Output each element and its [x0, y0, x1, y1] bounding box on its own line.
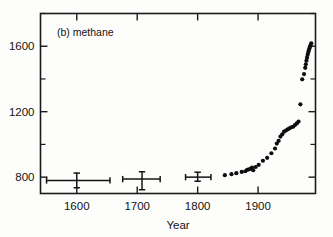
methane-scatter-chart: 80012001600 1600170018001900 (b) methane…: [0, 0, 333, 237]
data-point: [234, 171, 238, 175]
data-point: [309, 41, 313, 45]
x-tick-label: 1800: [185, 200, 211, 212]
y-tick-label: 1600: [9, 40, 35, 52]
x-axis-tick-labels: 1600170018001900: [64, 200, 271, 212]
error-bar-point: [186, 172, 211, 181]
data-point: [277, 139, 281, 143]
panel-title: (b) methane: [57, 26, 114, 38]
data-point: [240, 170, 244, 174]
y-tick-label: 800: [15, 171, 34, 183]
error-bar-series: [47, 172, 211, 190]
methane-concentration-figure: 80012001600 1600170018001900 (b) methane…: [0, 0, 333, 237]
x-tick-label: 1700: [124, 200, 150, 212]
data-point: [273, 146, 277, 150]
data-point: [304, 62, 308, 66]
data-point: [223, 173, 227, 177]
plot-frame: [41, 14, 316, 194]
error-bar-point: [47, 173, 110, 188]
data-point: [302, 72, 306, 76]
y-tick-label: 1200: [9, 106, 35, 118]
data-point: [261, 159, 265, 163]
data-point: [296, 119, 300, 123]
data-point: [229, 172, 233, 176]
y-axis-tick-labels: 80012001600: [9, 40, 35, 183]
data-point: [265, 156, 269, 160]
data-point: [298, 102, 302, 106]
data-point: [303, 66, 307, 70]
data-point: [257, 163, 261, 167]
data-point: [300, 77, 304, 81]
data-point: [269, 151, 273, 155]
data-point-series: [223, 41, 314, 177]
error-bar-point: [123, 172, 160, 190]
y-axis-major-ticks: [41, 46, 316, 177]
x-axis-title: Year: [166, 219, 189, 231]
x-tick-label: 1900: [245, 200, 271, 212]
x-axis-major-ticks: [77, 14, 258, 194]
x-tick-label: 1600: [64, 200, 90, 212]
